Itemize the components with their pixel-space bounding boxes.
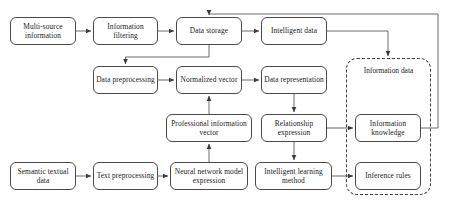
node-text-preprocessing[interactable]: Text preprocessing: [93, 162, 158, 190]
node-label: Neural network model expression: [173, 167, 245, 185]
node-semantic-textual-data[interactable]: Semantic textual data: [10, 162, 76, 190]
edge-intelligent-to-infodata: [327, 31, 388, 56]
node-intelligent-data[interactable]: Intelligent data: [261, 17, 327, 45]
node-professional-information-vector[interactable]: Professional information vector: [166, 114, 252, 142]
node-label: Data preprocessing: [96, 75, 155, 84]
node-intelligent-learning-method[interactable]: Intelligent learning method: [255, 162, 332, 190]
node-multi-source-information[interactable]: Multi-source information: [10, 17, 76, 45]
node-inference-rules[interactable]: Inference rules: [355, 162, 421, 190]
information-data-group-title: Information data: [346, 66, 431, 75]
node-label: Information knowledge: [358, 119, 418, 137]
node-information-knowledge[interactable]: Information knowledge: [355, 114, 421, 142]
node-label: Data representation: [264, 75, 324, 84]
node-label: Relationship expression: [264, 119, 324, 137]
node-information-filtering[interactable]: Information filtering: [93, 17, 158, 45]
flowchart-canvas: Information data Multi-source informatio…: [0, 0, 454, 204]
node-label: Data storage: [179, 26, 239, 35]
node-label: Multi-source information: [13, 22, 73, 40]
node-label: Intelligent learning method: [258, 167, 329, 185]
node-data-storage[interactable]: Data storage: [176, 17, 242, 45]
node-data-representation[interactable]: Data representation: [261, 66, 327, 94]
node-normalized-vector[interactable]: Normalized vector: [176, 66, 242, 94]
node-neural-network-model-expression[interactable]: Neural network model expression: [170, 162, 248, 190]
node-label: Professional information vector: [169, 119, 249, 137]
node-label: Information filtering: [96, 22, 155, 40]
node-label: Semantic textual data: [13, 167, 73, 185]
node-label: Text preprocessing: [96, 171, 155, 180]
node-label: Normalized vector: [179, 75, 239, 84]
node-label: Inference rules: [358, 171, 418, 180]
node-label: Intelligent data: [264, 26, 324, 35]
node-relationship-expression[interactable]: Relationship expression: [261, 114, 327, 142]
edge-storage-to-preprocessing: [126, 45, 210, 64]
node-data-preprocessing[interactable]: Data preprocessing: [93, 66, 158, 94]
